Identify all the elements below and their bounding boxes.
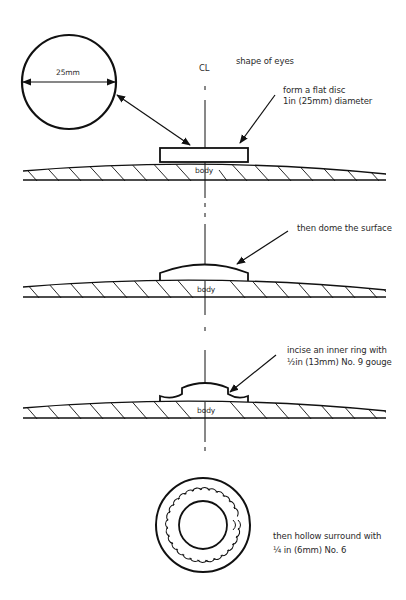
stage-3-annotation-line-1: incise an inner ring with [287,345,387,356]
stage-1-annotation-line-1: form a flat disc [283,85,345,96]
detail-circle [22,35,116,129]
hollowed-ring [156,478,250,572]
stage-4-annotation-line-2: ¼ in (6mm) No. 6 [273,545,346,556]
detail-link-arrow [117,95,190,145]
stage-1-body-label: body [195,165,213,176]
title-label: shape of eyes [236,56,294,67]
centerline-label: CL [199,63,209,74]
stage-3-annotation-line-2: ½in (13mm) No. 9 gouge [287,357,392,368]
stage-2-annotation-line-1: then dome the surface [297,223,392,234]
stage-4-annotation-line-1: then hollow surround with [273,531,381,542]
dimension-label: 25mm [56,67,80,78]
stage-1-annotation-line-2: 1in (25mm) diameter [283,96,372,107]
stage-3-body-label: body [197,405,215,416]
stage-2-body-label: body [197,284,215,295]
